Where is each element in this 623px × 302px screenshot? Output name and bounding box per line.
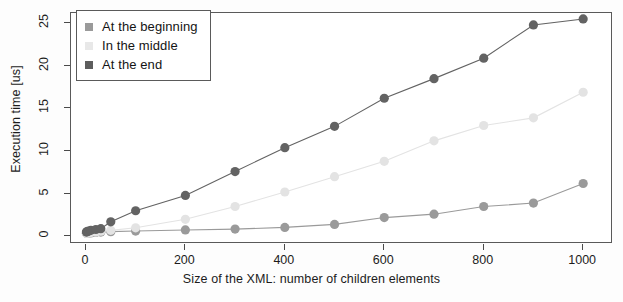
data-point <box>579 179 588 188</box>
data-point <box>330 122 339 131</box>
data-point <box>131 223 140 232</box>
chart-legend: At the beginningIn the middleAt the end <box>76 10 211 81</box>
data-point <box>429 210 438 219</box>
data-point <box>181 191 190 200</box>
data-point <box>429 136 438 145</box>
data-point <box>96 224 105 233</box>
data-point <box>280 187 289 196</box>
data-point <box>579 88 588 97</box>
legend-swatch-icon <box>85 23 93 31</box>
x-tickmark <box>184 244 185 250</box>
x-tick-label: 0 <box>60 253 110 267</box>
data-point <box>479 202 488 211</box>
x-tickmark <box>85 244 86 250</box>
data-point <box>131 206 140 215</box>
data-point <box>529 20 538 29</box>
y-tick-label: 0 <box>37 214 51 254</box>
data-point <box>106 217 115 226</box>
y-tick-label: 5 <box>37 172 51 212</box>
data-point <box>330 220 339 229</box>
data-point <box>479 54 488 63</box>
legend-item: At the end <box>85 55 198 74</box>
legend-item: At the beginning <box>85 17 198 36</box>
data-point <box>479 121 488 130</box>
data-point <box>380 94 389 103</box>
data-point <box>181 225 190 234</box>
series-line <box>86 92 583 233</box>
chart-figure: Execution time [us] 0510152025 020040060… <box>0 0 623 302</box>
data-point <box>529 198 538 207</box>
x-tick-label: 800 <box>458 253 508 267</box>
x-tick-label: 600 <box>358 253 408 267</box>
x-tickmark <box>483 244 484 250</box>
data-point <box>529 113 538 122</box>
data-point <box>380 157 389 166</box>
x-tick-label: 400 <box>259 253 309 267</box>
legend-swatch-icon <box>85 42 93 50</box>
data-point <box>106 226 115 235</box>
data-point <box>181 215 190 224</box>
data-point <box>230 202 239 211</box>
series-in-the-middle <box>82 88 588 238</box>
y-tick-label: 15 <box>37 86 51 126</box>
data-point <box>429 74 438 83</box>
data-point <box>380 213 389 222</box>
x-tickmark <box>383 244 384 250</box>
legend-item-label: In the middle <box>102 38 178 53</box>
data-point <box>280 223 289 232</box>
legend-swatch-icon <box>85 61 93 69</box>
x-axis-title: Size of the XML: number of children elem… <box>0 272 623 286</box>
y-tick-label: 20 <box>37 44 51 84</box>
data-point <box>280 143 289 152</box>
y-tick-label: 10 <box>37 129 51 169</box>
legend-item: In the middle <box>85 36 198 55</box>
data-point <box>579 14 588 23</box>
data-point <box>230 167 239 176</box>
series-at-the-beginning <box>82 179 588 238</box>
data-point <box>230 224 239 233</box>
legend-item-label: At the end <box>102 57 162 72</box>
y-tick-label: 25 <box>37 1 51 41</box>
legend-item-label: At the beginning <box>102 19 198 34</box>
x-tick-label: 1000 <box>557 253 607 267</box>
y-axis-title: Execution time [us] <box>9 19 23 219</box>
x-tickmark <box>284 244 285 250</box>
data-point <box>330 172 339 181</box>
x-tickmark <box>582 244 583 250</box>
x-tick-label: 200 <box>159 253 209 267</box>
